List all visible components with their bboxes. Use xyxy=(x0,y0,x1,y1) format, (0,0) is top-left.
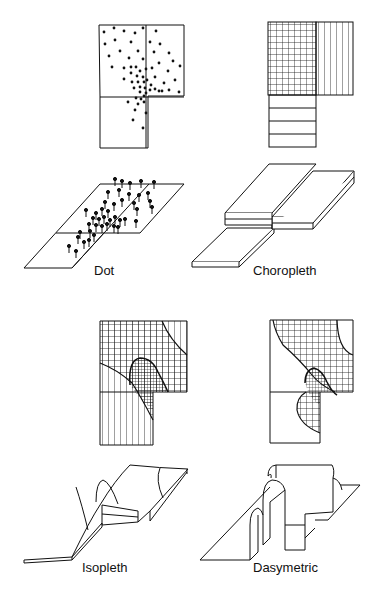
dot-points xyxy=(103,27,182,130)
panel-label-dot: Dot xyxy=(94,264,114,277)
choropleth-plan-view xyxy=(268,22,353,147)
dasymetric-plan-view xyxy=(270,320,353,443)
dot-plan-view xyxy=(99,25,184,148)
panel-label-choropleth: Choropleth xyxy=(253,264,317,277)
dot-pins xyxy=(67,177,155,258)
map-types-diagram xyxy=(0,0,375,593)
panel-label-isopleth: Isopleth xyxy=(82,561,128,574)
isopleth-isometric-view xyxy=(24,465,188,563)
dasymetric-isometric-view xyxy=(200,465,360,560)
panel-label-dasymetric: Dasymetric xyxy=(253,561,318,574)
choropleth-isometric-view xyxy=(192,164,354,267)
isopleth-plan-view xyxy=(100,321,187,445)
